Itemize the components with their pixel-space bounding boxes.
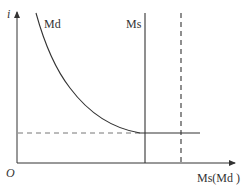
x-axis-label: Ms(Md ) (197, 172, 240, 184)
y-axis-label: i (7, 8, 10, 20)
origin-label: O (6, 167, 15, 179)
diagram-figure: i Md Ms O Ms(Md ) (0, 0, 246, 189)
diagram-canvas (0, 0, 246, 189)
ms-line-label: Ms (126, 18, 141, 30)
md-curve-label: Md (44, 18, 61, 30)
md-curve (36, 13, 200, 133)
